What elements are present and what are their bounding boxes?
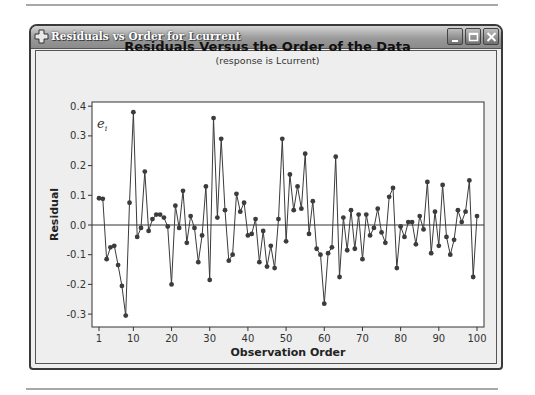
data-point [475, 214, 480, 219]
data-point [207, 278, 212, 283]
y-tick-label: 0.1 [70, 190, 86, 201]
data-point [356, 212, 361, 217]
data-point [436, 243, 441, 248]
data-point [322, 301, 327, 306]
data-point [467, 178, 472, 183]
x-tick-label: 100 [467, 333, 486, 344]
data-point [326, 251, 331, 256]
data-point [139, 226, 144, 231]
data-point [291, 208, 296, 213]
data-point [226, 258, 231, 263]
data-point [230, 252, 235, 257]
data-point [429, 251, 434, 256]
y-axis-label: Residual [48, 188, 61, 241]
data-point [444, 234, 449, 239]
data-point [345, 248, 350, 253]
data-point [303, 151, 308, 156]
data-point [440, 183, 445, 188]
data-point [383, 240, 388, 245]
data-point [433, 209, 438, 214]
bottom-divider [26, 388, 498, 390]
y-tick-label: 0.3 [70, 130, 86, 141]
data-point [169, 282, 174, 287]
data-point [349, 208, 354, 213]
data-point [150, 217, 155, 222]
data-point [142, 169, 147, 174]
data-point [165, 224, 170, 229]
data-point [162, 215, 167, 220]
x-tick-label: 40 [242, 333, 255, 344]
data-point [280, 136, 285, 141]
data-point [387, 194, 392, 199]
data-point [352, 246, 357, 251]
data-point [410, 220, 415, 225]
data-point [471, 275, 476, 280]
data-point [116, 263, 121, 268]
data-point [204, 184, 209, 189]
x-tick-label: 1 [96, 333, 102, 344]
x-tick-label: 30 [203, 333, 216, 344]
data-point [448, 252, 453, 257]
data-point [310, 199, 315, 204]
data-point [421, 227, 426, 232]
data-point [181, 188, 186, 193]
data-point [131, 110, 136, 115]
data-point [200, 233, 205, 238]
y-tick-label: 0.2 [70, 160, 86, 171]
y-tick-label: -0.2 [66, 279, 86, 290]
data-point [104, 257, 109, 262]
data-point [398, 224, 403, 229]
data-point [463, 209, 468, 214]
data-point [127, 200, 132, 205]
data-point [253, 217, 258, 222]
data-point [238, 209, 243, 214]
data-point [417, 214, 422, 219]
data-point [337, 275, 342, 280]
data-point [272, 266, 277, 271]
residual-plot: 0.40.30.20.10.0-0.1-0.2-0.31102030405060… [0, 0, 535, 395]
data-point [112, 243, 117, 248]
data-point [360, 257, 365, 262]
data-point [215, 215, 220, 220]
data-point [100, 196, 105, 201]
data-point [333, 154, 338, 159]
data-point [414, 242, 419, 247]
data-point [219, 136, 224, 141]
data-point [211, 116, 216, 121]
data-point [120, 283, 125, 288]
data-point [299, 206, 304, 211]
data-point [276, 217, 281, 222]
data-point [402, 234, 407, 239]
data-point [192, 226, 197, 231]
data-point [394, 266, 399, 271]
data-point [196, 260, 201, 265]
x-tick-label: 90 [432, 333, 445, 344]
data-point [265, 264, 270, 269]
x-tick-label: 20 [165, 333, 178, 344]
x-tick-label: 50 [280, 333, 293, 344]
data-point [379, 230, 384, 235]
data-point [288, 172, 293, 177]
data-point [452, 237, 457, 242]
data-point [307, 232, 312, 237]
x-tick-label: 10 [127, 333, 140, 344]
y-tick-label: 0.0 [70, 220, 86, 231]
data-point [368, 233, 373, 238]
data-point [459, 220, 464, 225]
data-point [330, 245, 335, 250]
data-point [146, 229, 151, 234]
data-point [158, 212, 163, 217]
data-point [188, 214, 193, 219]
data-point [234, 191, 239, 196]
x-axis-label: Observation Order [230, 346, 346, 359]
data-point [295, 184, 300, 189]
x-tick-label: 60 [318, 333, 331, 344]
data-point [242, 200, 247, 205]
data-point [184, 240, 189, 245]
data-point [123, 313, 128, 318]
data-point [135, 234, 140, 239]
y-tick-label: -0.3 [66, 309, 86, 320]
y-tick-label: -0.1 [66, 249, 86, 260]
data-point [223, 208, 228, 213]
data-point [341, 215, 346, 220]
